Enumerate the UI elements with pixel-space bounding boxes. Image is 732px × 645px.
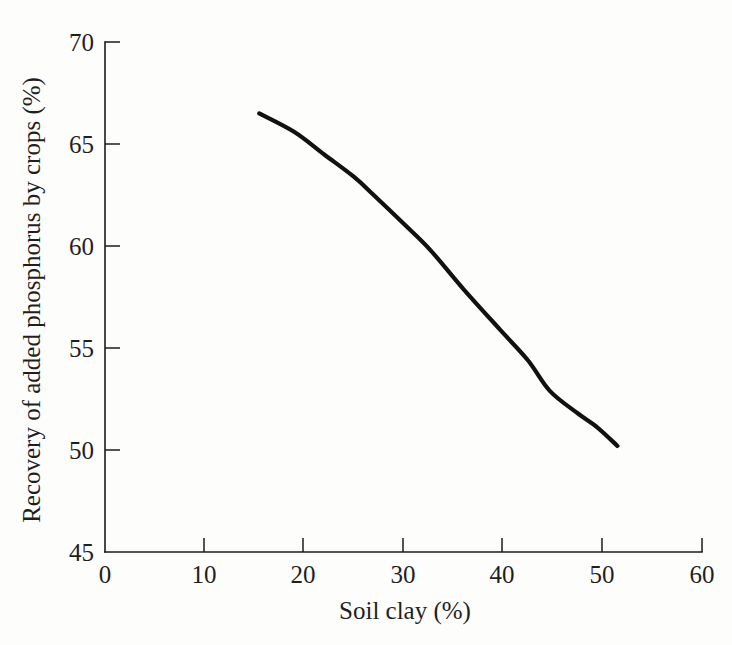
x-tick-label-20: 20 [291, 561, 316, 588]
y-tick-label-50: 50 [69, 437, 94, 464]
x-tick-label-0: 0 [99, 561, 112, 588]
x-tick-label-40: 40 [490, 561, 515, 588]
y-axis-title: Recovery of added phosphorus by crops (%… [18, 77, 46, 523]
y-tick-label-55: 55 [69, 335, 94, 362]
line-chart-canvas: 70 65 60 55 50 45 0 10 20 30 40 50 60 So… [0, 0, 732, 645]
y-tick-label-60: 60 [69, 233, 94, 260]
x-tick-label-10: 10 [192, 561, 217, 588]
y-tick-label-45: 45 [69, 539, 94, 566]
x-axis-title: Soil clay (%) [339, 597, 471, 625]
y-axis-ticks [105, 42, 120, 450]
y-tick-label-65: 65 [69, 131, 94, 158]
x-tick-labels: 0 10 20 30 40 50 60 [99, 561, 715, 588]
chart-figure: 70 65 60 55 50 45 0 10 20 30 40 50 60 So… [0, 0, 732, 645]
x-tick-label-60: 60 [690, 561, 715, 588]
x-tick-label-50: 50 [590, 561, 615, 588]
x-axis-ticks [204, 538, 702, 552]
data-series-line [259, 113, 617, 446]
x-tick-label-30: 30 [391, 561, 416, 588]
y-tick-label-70: 70 [69, 29, 94, 56]
y-tick-labels: 70 65 60 55 50 45 [69, 29, 94, 566]
